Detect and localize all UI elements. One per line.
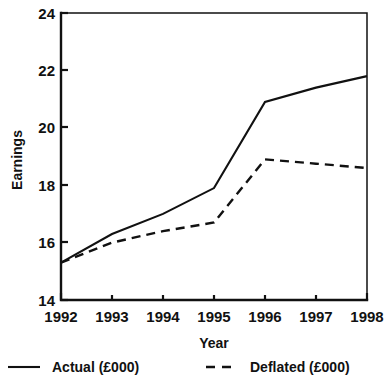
y-tick-label: 16 <box>38 234 55 251</box>
y-axis-tick-labels: 24 22 20 18 16 14 <box>38 5 55 309</box>
y-axis-title: Earnings <box>9 130 25 190</box>
y-tick-label: 22 <box>38 62 55 79</box>
y-tick-label: 24 <box>38 5 55 22</box>
series-line-actual <box>61 76 367 263</box>
x-tick-label: 1992 <box>44 308 77 325</box>
chart-canvas: 24 22 20 18 16 14 1992 1993 1994 1995 19… <box>0 0 389 385</box>
series-line-deflated <box>61 159 367 262</box>
legend-label-deflated: Deflated (£000) <box>250 359 350 375</box>
x-tick-label: 1993 <box>95 308 128 325</box>
x-tick-label: 1995 <box>197 308 230 325</box>
y-tick-label: 20 <box>38 119 55 136</box>
x-tick-label: 1996 <box>248 308 281 325</box>
x-axis-title: Year <box>199 335 229 351</box>
legend: Actual (£000) Deflated (£000) <box>8 359 350 375</box>
line-chart: 24 22 20 18 16 14 1992 1993 1994 1995 19… <box>0 0 389 385</box>
x-axis-tick-labels: 1992 1993 1994 1995 1996 1997 1998 <box>44 308 383 325</box>
x-tick-label: 1997 <box>299 308 332 325</box>
plot-frame <box>61 13 367 300</box>
x-tick-label: 1994 <box>146 308 180 325</box>
y-tick-label: 14 <box>38 292 55 309</box>
legend-label-actual: Actual (£000) <box>52 359 139 375</box>
plot-axes <box>61 13 367 300</box>
x-tick-label: 1998 <box>350 308 383 325</box>
y-tick-label: 18 <box>38 177 55 194</box>
